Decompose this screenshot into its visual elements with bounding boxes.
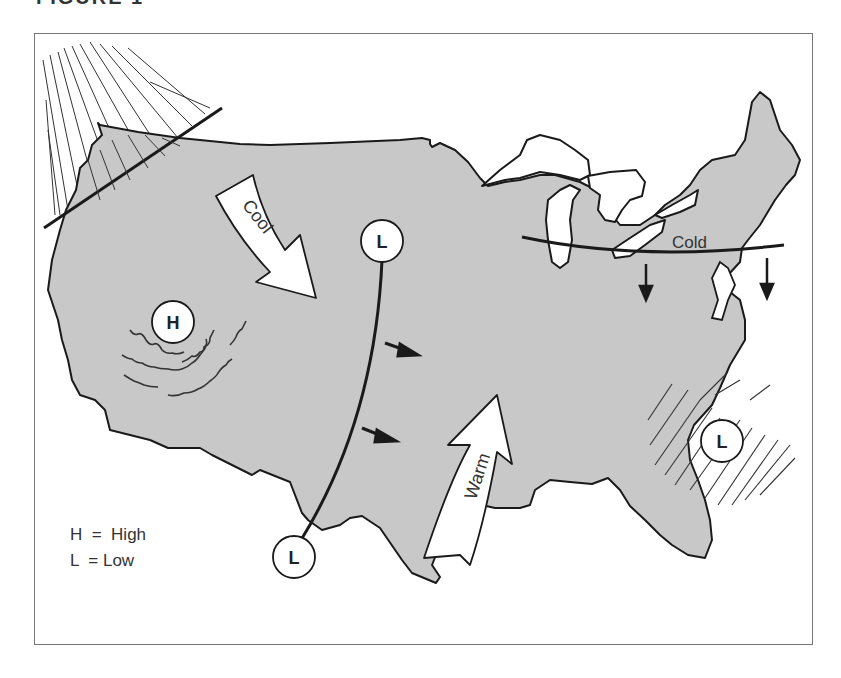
l-symbol: L <box>377 232 388 252</box>
l-symbol: L <box>289 548 300 568</box>
low-pressure-southwest: L <box>273 536 315 578</box>
legend-item-low: L = Low <box>70 548 146 574</box>
high-pressure-h: H <box>152 301 194 343</box>
low-pressure-north: L <box>361 220 403 262</box>
map-legend: H = High L = Low <box>70 522 146 574</box>
l-symbol: L <box>717 432 728 452</box>
h-symbol: H <box>167 313 180 333</box>
weather-map: Cool Warm H L L L Cold <box>0 0 841 678</box>
legend-item-high: H = High <box>70 522 146 548</box>
low-pressure-southeast: L <box>701 420 743 462</box>
cold-front-label: Cold <box>672 233 707 252</box>
